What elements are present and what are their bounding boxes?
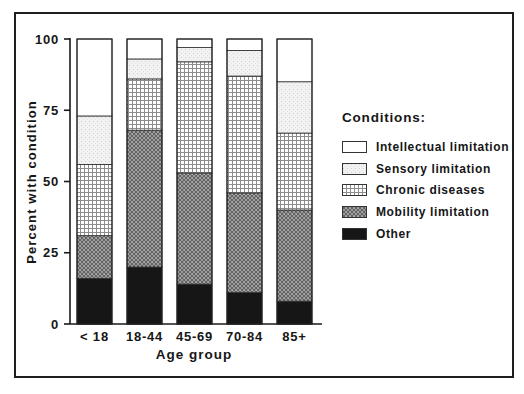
bar-segment <box>227 193 262 293</box>
legend-item-chronic-diseases: Chronic diseases <box>342 179 509 201</box>
bar-segment <box>77 116 112 164</box>
legend-item-sensory-limitation: Sensory limitation <box>342 158 509 180</box>
y-tick-label: 50 <box>43 174 59 189</box>
bar-segment <box>177 284 212 324</box>
bar-segment <box>77 164 112 235</box>
y-tick-label: 0 <box>51 317 59 332</box>
legend-swatch-chronic-diseases <box>342 184 367 196</box>
legend: Conditions: Intellectual limitation Sens… <box>342 110 509 244</box>
legend-item-mobility-limitation: Mobility limitation <box>342 201 509 223</box>
bar-segment <box>227 76 262 193</box>
legend-label-sensory-limitation: Sensory limitation <box>376 162 491 176</box>
bar-segment <box>227 50 262 76</box>
legend-label-intellectual-limitation: Intellectual limitation <box>376 140 509 154</box>
bar-segment <box>77 236 112 279</box>
bar-segment <box>277 133 312 210</box>
x-tick-label: 70-84 <box>226 329 263 344</box>
legend-label-mobility-limitation: Mobility limitation <box>376 205 489 219</box>
bar-segment <box>277 210 312 301</box>
legend-swatch-sensory-limitation <box>342 163 367 175</box>
x-axis-title: Age group <box>156 347 233 362</box>
legend-label-chronic-diseases: Chronic diseases <box>376 183 485 197</box>
x-tick-label: 45-69 <box>176 329 213 344</box>
bar-segment <box>277 39 312 82</box>
bar-segment <box>227 293 262 324</box>
bar-segment <box>177 48 212 62</box>
x-tick-label: 85+ <box>282 329 306 344</box>
bar-segment <box>177 173 212 284</box>
legend-label-other: Other <box>376 227 411 241</box>
bar-segment <box>277 82 312 133</box>
legend-swatch-other <box>342 228 367 240</box>
bar-segment <box>127 130 162 267</box>
y-tick-label: 100 <box>35 32 59 47</box>
bar-segment <box>127 59 162 79</box>
bar-segment <box>127 39 162 59</box>
bar-segment <box>127 267 162 324</box>
legend-title: Conditions: <box>342 110 509 125</box>
x-tick-label: < 18 <box>80 329 109 344</box>
legend-item-other: Other <box>342 223 509 245</box>
legend-swatch-mobility-limitation <box>342 206 367 218</box>
y-axis-title: Percent with condition <box>24 100 39 264</box>
bar-segment <box>77 278 112 324</box>
bar-segment <box>127 79 162 130</box>
bar-segment <box>77 39 112 116</box>
bar-segment <box>177 39 212 48</box>
y-tick-label: 75 <box>43 103 59 118</box>
figure: 0255075100< 1818-4445-6970-8485+ Percent… <box>0 0 524 394</box>
legend-swatch-intellectual-limitation <box>342 141 367 153</box>
bar-segment <box>277 301 312 324</box>
legend-item-intellectual-limitation: Intellectual limitation <box>342 136 509 158</box>
bar-segment <box>177 62 212 173</box>
bar-segment <box>227 39 262 50</box>
y-tick-label: 25 <box>43 245 59 260</box>
x-tick-label: 18-44 <box>126 329 163 344</box>
